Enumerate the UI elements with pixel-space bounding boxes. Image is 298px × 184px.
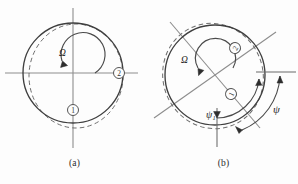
panel-caption-b: (b) [149,158,298,168]
panel-b: 2 1 Ω ψ1 ψ (b) [149,0,298,184]
figure-root: 1 2 Ω (a) [0,0,298,184]
psi-arc-arrow-head-bottom [236,127,243,134]
panel-a-graphics [0,0,149,184]
psi-arc-arrow-head-top [277,76,283,83]
psi1-label: ψ1 [206,110,216,121]
omega-rotation-arc [61,33,105,73]
panel-b-graphics [149,0,298,184]
omega-label-a: Ω [59,49,66,59]
psi1-subscript: 1 [212,114,215,121]
omega-rotation-arc [196,38,236,68]
omega-arrow-head [198,69,204,76]
psi1-arc-arrow-head-top [256,79,262,86]
panel-a: 1 2 Ω (a) [0,0,149,184]
psi-label: ψ [273,104,280,115]
marker-one-a: 1 [67,104,79,116]
panel-caption-a: (a) [0,158,149,168]
omega-arrow-head [61,61,68,67]
marker-two-a: 2 [113,67,125,79]
omega-label-b: Ω [181,56,188,66]
